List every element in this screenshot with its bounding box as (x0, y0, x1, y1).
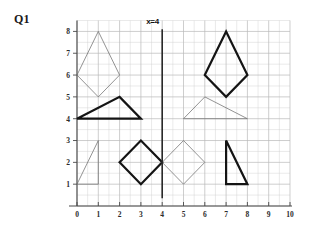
plot-svg: 01234567891012345678 x=4 (0, 0, 310, 225)
coordinate-grid-plot: 01234567891012345678 x=4 (0, 0, 310, 225)
y-axis-tick-label: 8 (66, 27, 70, 36)
worksheet-page: Q1 01234567891012345678 x=4 (0, 0, 310, 225)
y-axis-tick-label: 7 (66, 49, 70, 58)
x-axis-tick-label: 1 (96, 210, 100, 219)
y-axis-tick-label: 1 (66, 180, 70, 189)
axis-lines (69, 21, 292, 207)
x-axis-tick-label: 4 (160, 210, 164, 219)
x-axis-tick-label: 8 (246, 210, 250, 219)
x-axis-tick-label: 10 (286, 210, 294, 219)
y-axis-tick-label: 3 (66, 136, 70, 145)
x-axis-tick-label: 2 (118, 210, 122, 219)
x-axis-tick-label: 9 (267, 210, 271, 219)
y-axis-tick-label: 5 (66, 93, 70, 102)
annotations-layer: x=4 (146, 17, 160, 26)
y-axis-tick-label: 6 (66, 71, 70, 80)
x-axis-tick-label: 6 (203, 210, 207, 219)
mirror-line-label: x=4 (146, 17, 160, 26)
axis-tick-labels: 01234567891012345678 (66, 27, 294, 219)
y-axis-tick-label: 2 (66, 158, 70, 167)
y-axis-tick-label: 4 (66, 115, 70, 124)
x-axis-tick-label: 3 (139, 210, 143, 219)
x-axis-tick-label: 7 (224, 210, 228, 219)
x-axis-tick-label: 5 (182, 210, 186, 219)
x-axis-tick-label: 0 (75, 210, 79, 219)
